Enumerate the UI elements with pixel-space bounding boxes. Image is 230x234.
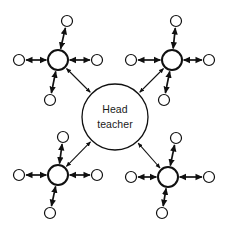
connector-edge	[140, 68, 164, 92]
leaf-node	[92, 55, 103, 66]
leaf-node	[204, 55, 215, 66]
spoke-edge	[61, 28, 66, 49]
center-node-group: Head teacher	[82, 84, 148, 150]
leaf-node	[14, 170, 25, 181]
leaf-node	[58, 132, 69, 143]
leaf-node	[157, 208, 168, 219]
leaf-node	[171, 133, 182, 144]
spoke-edge	[51, 71, 55, 93]
leaf-node	[159, 95, 170, 106]
leaf-node	[171, 16, 182, 27]
head-teacher-label-line-2: teacher	[97, 118, 133, 130]
leaf-node	[14, 55, 25, 66]
connector-edge	[66, 142, 90, 166]
spoke-edge	[163, 188, 166, 206]
head-teacher-label-line-1: Head	[102, 103, 128, 115]
hub-node	[48, 50, 68, 70]
leaf-node	[204, 172, 215, 183]
hub-node	[48, 165, 68, 185]
leaf-node	[126, 55, 137, 66]
leaf-node	[126, 172, 137, 183]
spoke-edge	[173, 28, 175, 48]
spoke-edge	[60, 144, 63, 163]
leaf-node	[92, 170, 103, 181]
leaf-node	[45, 208, 56, 219]
connector-edge	[138, 143, 160, 168]
spoke-edge	[165, 71, 169, 93]
leaf-node	[62, 16, 73, 27]
hub-node	[158, 167, 178, 187]
spoke-edge	[170, 145, 174, 166]
spoke-edge	[51, 186, 55, 206]
leaf-node	[45, 95, 56, 106]
diagram-canvas: Head teacher	[0, 0, 230, 234]
connector-edge	[66, 68, 90, 92]
hub-node	[162, 50, 182, 70]
network-diagram: Head teacher	[0, 0, 230, 234]
